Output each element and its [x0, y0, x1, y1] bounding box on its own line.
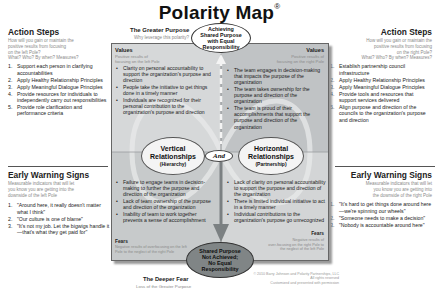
right-divider [335, 166, 435, 167]
right-action-sub: How will you gain or maintain thepositiv… [328, 38, 432, 61]
list-item: Individuals are recognized for their per… [115, 97, 215, 116]
deeper-fear-heading: The Deeper Fear [143, 276, 188, 282]
left-warning-list: 1."Around here, it really doesn't matter… [8, 202, 112, 235]
page-title: Polarity Map® [0, 2, 439, 24]
list-item: Clarity on personal accountability to su… [115, 65, 215, 84]
right-warning-list: 1."It's hard to get things done around h… [328, 201, 432, 228]
list-item: 3."It's not my job. Let the bigwigs hand… [8, 223, 112, 236]
greater-purpose-heading: The Greater Purpose [130, 27, 189, 33]
list-item: 3.Apply Meaningful Dialogue Principles [8, 84, 112, 90]
right-action-steps: Action Steps How will you gain or mainta… [328, 27, 432, 124]
list-item: 3."Nobody is accountable around here" [330, 222, 432, 228]
right-pole-oval: HorizontalRelationships(Partnership) [238, 137, 304, 175]
list-item: 2."Our culture is one of blame" [8, 216, 112, 222]
right-values-list: The team engages in decision-making that… [226, 67, 326, 130]
right-warning-signs: Early Warning Signs Measurable indicator… [328, 170, 432, 229]
list-item: Inability of team to work together preve… [115, 211, 215, 223]
left-action-steps: Action Steps How will you gain or mainta… [8, 27, 112, 117]
right-fears-label: Fears [311, 231, 324, 236]
left-action-sub: How will you gain or maintain thepositiv… [8, 38, 112, 61]
list-item: 2."Someone needs to make a decision" [330, 215, 432, 221]
left-action-list: 1.Support each person in clarifying acco… [8, 63, 112, 117]
list-item: The team takes ownership for the purpose… [226, 86, 326, 105]
greater-purpose-question: Why leverage this polarity? [134, 35, 189, 40]
list-item: Individual contributions to the organiza… [226, 211, 326, 223]
deeper-fear-sub: Loss of the Greater Purpose [136, 284, 191, 289]
list-item: People take the initiative to get things… [115, 84, 215, 96]
list-item: 1."Around here, it really doesn't matter… [8, 202, 112, 215]
left-warning-signs: Early Warning Signs Measurable indicator… [8, 170, 112, 236]
right-values-sub: Positive results offocusing on the right… [277, 54, 324, 64]
left-fears-label: Fears [115, 239, 128, 244]
right-fears-sub: Negative results ofover-focusing on the … [268, 238, 324, 252]
left-fears-sub: Negative results of overfocusing on the … [115, 245, 195, 254]
left-values-list: Clarity on personal accountability to su… [115, 65, 215, 116]
list-item: 1."It's hard to get things done around h… [330, 201, 432, 214]
right-values-label: Values [306, 47, 324, 53]
right-fears-list: Lack of clarity on personal accountabili… [226, 179, 326, 224]
copyright-notice: © 2010 Barry Johnson and Polarity Partne… [253, 272, 339, 285]
left-divider [8, 166, 108, 167]
list-item: 4.Provide resources for individuals to i… [8, 91, 112, 104]
left-warning-heading: Early Warning Signs [8, 170, 112, 180]
right-action-list: 1.Establish partnership council infrastr… [328, 63, 432, 123]
and-oval: And [205, 150, 233, 162]
list-item: Lack of team ownership of the purpose an… [115, 198, 215, 210]
list-item: 5.Align purpose and direction of the cou… [330, 104, 432, 123]
list-item: The team engages in decision-making that… [226, 67, 326, 86]
list-item: 1.Establish partnership council infrastr… [330, 63, 432, 76]
left-action-heading: Action Steps [8, 27, 112, 37]
right-warning-sub: Measurable indicators that will letyou k… [328, 181, 432, 198]
right-warning-heading: Early Warning Signs [328, 170, 432, 180]
left-values-label: Values [115, 47, 133, 53]
list-item: Failure to engage teams in decision-maki… [115, 179, 215, 198]
list-item: Lack of clarity on personal accountabili… [226, 179, 326, 198]
left-values-sub: Positive results offocusing on the left … [115, 54, 160, 64]
left-fears-list: Failure to engage teams in decision-maki… [115, 179, 215, 224]
list-item: 2.Apply Healthy Relationship Principles [330, 77, 432, 83]
deeper-fear-oval: Shared PurposeNot Achieved;No EqualRespo… [186, 242, 254, 278]
greater-purpose-oval: AchievingShared Purposewith EqualRespons… [191, 23, 251, 53]
left-pole-oval: VerticalRelationships(Hierarchy) [141, 137, 205, 175]
list-item: 2.Apply Healthy Relationship Principles [8, 77, 112, 83]
list-item: 1.Support each person in clarifying acco… [8, 63, 112, 76]
list-item: There is limited individual initiative t… [226, 198, 326, 210]
list-item: 4.Provide tools and resources that suppo… [330, 91, 432, 104]
list-item: 5.Provide role clarification and perform… [8, 104, 112, 117]
right-action-heading: Action Steps [328, 27, 432, 37]
list-item: The team is proud of their accomplishmen… [226, 105, 326, 130]
list-item: 3.Apply Meaningful Dialogue Principles [330, 84, 432, 90]
left-warning-sub: Measurable indicators that will letyou k… [8, 181, 112, 198]
